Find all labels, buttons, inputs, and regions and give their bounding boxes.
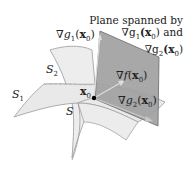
plane-caption: Plane spanned by ∇g1(x0) and ∇g2(x0) xyxy=(89,14,183,60)
diagram-canvas: Plane spanned by ∇g1(x0) and ∇g2(x0) ∇g1… xyxy=(0,0,195,170)
caption-line-1: Plane spanned by xyxy=(89,14,183,26)
caption-line-3: ∇g2(x0) xyxy=(89,43,183,60)
label-x0: x0 xyxy=(80,86,91,102)
label-s1: S1 xyxy=(12,89,24,105)
label-grad-g2: ∇g2(x0) xyxy=(118,95,157,111)
label-grad-f: ∇f(x0) xyxy=(116,70,147,86)
label-s: S xyxy=(66,106,74,117)
point-x0 xyxy=(92,96,96,100)
label-s2: S2 xyxy=(46,64,58,80)
label-grad-g1: ∇g1(x0) xyxy=(56,29,95,45)
caption-line-2: ∇g1(x0) and xyxy=(89,26,183,43)
